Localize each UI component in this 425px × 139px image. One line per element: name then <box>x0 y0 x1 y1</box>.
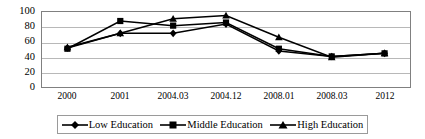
y-tick-label-20: 20 <box>25 67 36 78</box>
y-tick-label-100: 100 <box>19 6 35 17</box>
y-tick-label-80: 80 <box>25 21 36 32</box>
line-chart: 100 80 60 40 20 0 2000 2001 2004.03 2004… <box>0 0 425 139</box>
x-tick-label-2000: 2000 <box>58 91 77 102</box>
square-marker-icon <box>160 119 186 131</box>
legend-label-low-education: Low Education <box>89 119 153 130</box>
series-line-low-education <box>67 24 384 56</box>
chart-legend: Low Education Middle Education High Educ… <box>57 115 368 134</box>
x-tick-label-2008-01: 2008.01 <box>264 91 295 102</box>
x-tick-label-2008-03: 2008.03 <box>317 91 348 102</box>
y-tick-label-60: 60 <box>25 36 36 47</box>
y-axis: 100 80 60 40 20 0 <box>0 0 38 99</box>
legend-item-middle-education: Middle Education <box>160 119 263 131</box>
x-tick-label-2004-12: 2004.12 <box>211 91 242 102</box>
series-layer <box>41 11 411 88</box>
data-point <box>170 30 177 38</box>
diamond-marker-icon <box>62 119 88 131</box>
legend-item-low-education: Low Education <box>62 119 153 131</box>
y-tick-label-40: 40 <box>25 52 36 63</box>
legend-item-high-education: High Education <box>270 119 363 131</box>
data-point <box>170 23 176 29</box>
data-point <box>117 18 123 24</box>
data-point <box>223 19 229 25</box>
x-axis: 2000 2001 2004.03 2004.12 2008.01 2008.0… <box>41 89 411 105</box>
y-tick-label-0: 0 <box>30 82 35 93</box>
x-tick-label-2012: 2012 <box>376 91 395 102</box>
triangle-marker-icon <box>270 119 296 131</box>
legend-label-high-education: High Education <box>297 119 363 130</box>
data-point <box>276 46 282 52</box>
legend-label-middle-education: Middle Education <box>187 119 263 130</box>
x-tick-label-2004-03: 2004.03 <box>158 91 189 102</box>
x-tick-label-2001: 2001 <box>111 91 130 102</box>
